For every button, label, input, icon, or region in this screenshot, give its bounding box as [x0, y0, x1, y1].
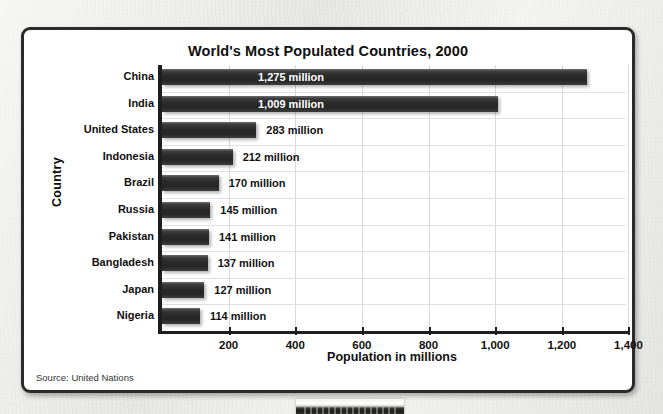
x-tick [295, 327, 297, 335]
bar-value-label: 137 million [218, 256, 275, 270]
category-label-bangladesh: Bangladesh [42, 256, 154, 268]
bar-pakistan [162, 229, 209, 245]
bar-row: 145 million [162, 198, 630, 224]
category-axis-labels: ChinaIndiaUnited StatesIndonesiaBrazilRu… [38, 65, 154, 331]
bar-row: 137 million [162, 251, 630, 277]
category-label-china: China [42, 70, 154, 82]
x-tick [562, 327, 564, 335]
category-label-india: India [42, 97, 154, 109]
bar-value-label: 141 million [219, 230, 276, 244]
bar-japan [162, 282, 204, 298]
bar-value-label: 283 million [266, 123, 323, 137]
x-tick [229, 327, 231, 335]
bar-united-states [162, 122, 256, 138]
bar-india [162, 96, 498, 112]
bar-value-label: 145 million [220, 203, 277, 217]
chart-card: World's Most Populated Countries, 2000 C… [21, 27, 635, 393]
x-tick [495, 327, 497, 335]
category-label-pakistan: Pakistan [42, 230, 154, 242]
bar-value-label: 114 million [210, 309, 266, 323]
bar-value-label: 127 million [214, 283, 271, 297]
bar-row: 1,275 million [162, 65, 630, 91]
bar-row: 114 million [162, 304, 630, 330]
category-label-japan: Japan [42, 283, 154, 295]
bar-value-label: 212 million [243, 150, 300, 164]
source-note: Source: United Nations [36, 372, 134, 383]
bar-value-label: 170 million [229, 176, 286, 190]
x-tick [362, 327, 364, 335]
category-label-russia: Russia [42, 203, 154, 215]
bar-bangladesh [162, 255, 208, 271]
x-tick [429, 327, 431, 335]
bar-row: 170 million [162, 171, 630, 197]
bar-value-label: 1,009 million [258, 97, 324, 111]
y-axis-line [158, 65, 162, 333]
background-paper-scrap [296, 399, 404, 414]
bar-russia [162, 202, 210, 218]
x-axis-title: Population in millions [158, 350, 626, 364]
category-label-nigeria: Nigeria [42, 309, 154, 321]
chart-title: World's Most Populated Countries, 2000 [24, 43, 632, 59]
bar-row: 127 million [162, 278, 630, 304]
bar-row: 141 million [162, 225, 630, 251]
bar-nigeria [162, 308, 200, 324]
bar-brazil [162, 175, 219, 191]
x-tick [628, 327, 630, 335]
category-label-united-states: United States [42, 123, 154, 135]
bar-row: 1,009 million [162, 92, 630, 118]
bar-value-label: 1,275 million [258, 70, 324, 84]
bar-row: 283 million [162, 118, 630, 144]
bar-china [162, 69, 587, 85]
bar-indonesia [162, 149, 233, 165]
bar-row: 212 million [162, 145, 630, 171]
category-label-brazil: Brazil [42, 176, 154, 188]
photo-page-background: World's Most Populated Countries, 2000 C… [0, 0, 663, 414]
category-label-indonesia: Indonesia [42, 150, 154, 162]
plot-area: 1,275 million1,009 million283 million212… [158, 65, 626, 331]
